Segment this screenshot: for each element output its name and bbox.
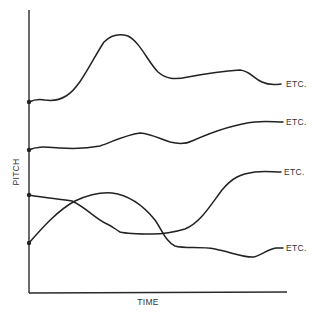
pitch-contour-diagram: ETC. ETC. ETC. ETC. TIME PITCH bbox=[0, 0, 313, 313]
x-axis-label: TIME bbox=[137, 297, 159, 307]
contour-4-etc-label: ETC. bbox=[286, 243, 307, 253]
pitch-contour-4 bbox=[29, 193, 283, 257]
pitch-contour-3 bbox=[29, 172, 281, 234]
contour-3-start-dot bbox=[27, 193, 31, 197]
contour-3-etc-label: ETC. bbox=[284, 167, 305, 177]
contour-1-etc-label: ETC. bbox=[286, 79, 307, 89]
contour-2-etc-label: ETC. bbox=[286, 117, 307, 127]
contour-1-start-dot bbox=[27, 100, 31, 104]
y-axis-label: PITCH bbox=[11, 159, 21, 186]
pitch-contour-2 bbox=[29, 122, 283, 150]
pitch-contour-1 bbox=[29, 35, 281, 102]
contour-4-start-dot bbox=[27, 241, 31, 245]
contour-2-start-dot bbox=[27, 148, 31, 152]
x-axis bbox=[29, 292, 287, 293]
